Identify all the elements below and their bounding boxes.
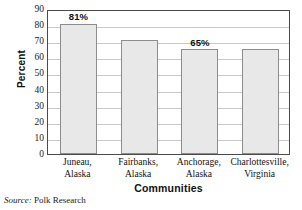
x-tick-label: Juneau,Alaska <box>43 157 112 180</box>
source-label: Source: <box>4 195 32 205</box>
y-tick-label: 60 <box>24 52 44 63</box>
bar-chart-figure: Percent 0102030405060708090 81%65% Junea… <box>0 0 302 210</box>
x-tick-label: Fairbanks,Alaska <box>104 157 173 180</box>
y-tick-label: 30 <box>24 101 44 112</box>
bar <box>181 49 218 154</box>
x-tick-label-line: Virginia <box>225 169 294 181</box>
x-tick-label-line: Juneau, <box>43 157 112 169</box>
bar <box>121 40 158 154</box>
x-tick-label-line: Anchorage, <box>165 157 234 169</box>
y-tick-label: 90 <box>24 4 44 15</box>
x-tick-label-line: Alaska <box>43 169 112 181</box>
source-text: Polk Research <box>34 195 86 205</box>
bar-series: 81%65% <box>48 11 289 154</box>
y-tick-label: 80 <box>24 20 44 31</box>
y-tick-label: 70 <box>24 36 44 47</box>
y-tick-label: 40 <box>24 85 44 96</box>
bar <box>242 49 279 154</box>
y-axis-tick-labels: 0102030405060708090 <box>24 10 44 155</box>
bar-value-label: 65% <box>170 37 230 49</box>
x-tick-label-line: Fairbanks, <box>104 157 173 169</box>
x-tick-label-line: Alaska <box>104 169 173 181</box>
y-tick-label: 50 <box>24 68 44 79</box>
y-tick-label: 10 <box>24 133 44 144</box>
y-tick-label: 0 <box>24 149 44 160</box>
x-tick-label-line: Charlottesville, <box>225 157 294 169</box>
plot-area: 81%65% <box>47 10 290 155</box>
x-tick-label-line: Alaska <box>165 169 234 181</box>
x-tick-label: Charlottesville,Virginia <box>225 157 294 180</box>
source-note: Source: Polk Research <box>4 195 86 205</box>
bar <box>60 24 97 155</box>
x-tick-label: Anchorage,Alaska <box>165 157 234 180</box>
x-axis-tick-labels: Juneau,AlaskaFairbanks,AlaskaAnchorage,A… <box>47 157 290 183</box>
bar-value-label: 81% <box>48 11 108 23</box>
x-axis-title: Communities <box>47 182 290 194</box>
y-tick-label: 20 <box>24 117 44 128</box>
